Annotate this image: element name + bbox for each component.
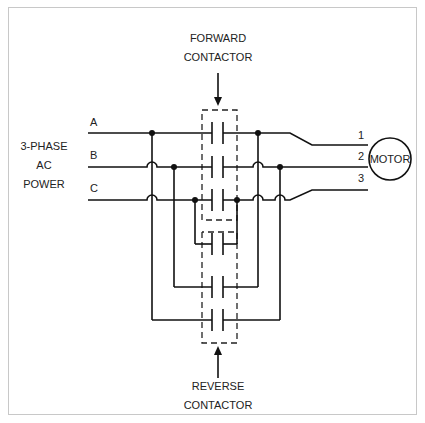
reverse-label-line1: REVERSE bbox=[192, 380, 245, 392]
phase-label-b: B bbox=[90, 149, 97, 161]
reverse-label-line2: CONTACTOR bbox=[184, 399, 253, 411]
forward-label-line1: FORWARD bbox=[190, 32, 246, 44]
source-label-line2: AC bbox=[36, 159, 51, 171]
forward-label-line2: CONTACTOR bbox=[184, 51, 253, 63]
terminal-2-label: 2 bbox=[358, 150, 364, 162]
source-label-line3: POWER bbox=[23, 178, 65, 190]
phase-label-c: C bbox=[90, 182, 98, 194]
reversing-motor-wiring-diagram: FORWARD CONTACTOR 3-PHASE AC POWER A B C bbox=[0, 0, 425, 423]
motor-label: MOTOR bbox=[370, 153, 411, 165]
phase-label-a: A bbox=[90, 116, 98, 128]
terminal-3-label: 3 bbox=[358, 172, 364, 184]
source-label-line1: 3-PHASE bbox=[20, 140, 67, 152]
terminal-1-label: 1 bbox=[358, 129, 364, 141]
